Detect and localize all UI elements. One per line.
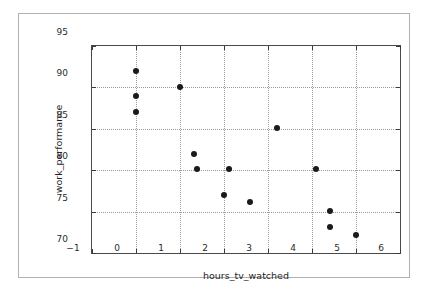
data-point [313,166,319,172]
x-axis-tick [356,46,357,50]
data-point [133,68,139,74]
x-axis-tick [356,249,357,253]
gridline-horizontal [92,129,400,130]
x-axis-tick [312,46,313,50]
x-tick-label: 3 [246,243,252,253]
y-axis-tick [396,253,400,254]
x-axis-tick [224,46,225,50]
x-tick-label: 4 [290,243,296,253]
data-point [221,192,227,198]
screenshot-root: work_performance hours_tv_watched −10123… [0,0,428,292]
data-point [191,151,197,157]
gridline-vertical [136,46,137,253]
gridline-vertical [312,46,313,253]
x-axis-tick [136,249,137,253]
gridline-vertical [180,46,181,253]
x-axis-tick [312,249,313,253]
x-axis-tick [400,249,401,253]
y-axis-tick [92,46,96,47]
x-axis-tick [268,249,269,253]
x-axis-tick [268,46,269,50]
y-axis-tick [396,170,400,171]
y-axis-tick [396,129,400,130]
gridline-vertical [268,46,269,253]
data-point [327,224,333,230]
x-tick-label: 0 [114,243,120,253]
gridline-vertical [356,46,357,253]
x-tick-label: 5 [334,243,340,253]
y-axis-tick [92,129,96,130]
y-tick-label: 90 [47,68,68,78]
y-axis-tick [396,87,400,88]
x-axis-tick [180,249,181,253]
x-tick-label: 6 [378,243,384,253]
x-axis-tick [180,46,181,50]
x-tick-label: 1 [158,243,164,253]
x-axis-label: hours_tv_watched [91,270,401,281]
y-axis-tick [396,212,400,213]
gridline-horizontal [92,170,400,171]
y-tick-label: 95 [47,27,68,37]
data-point [274,125,280,131]
x-axis-tick [400,46,401,50]
data-point [177,84,183,90]
y-axis-tick [396,46,400,47]
x-tick-label: 2 [202,243,208,253]
plot-area [91,45,401,254]
x-axis-tick [136,46,137,50]
data-point [247,199,253,205]
gridline-vertical [224,46,225,253]
data-point [353,232,359,238]
y-axis-tick [92,212,96,213]
y-axis-tick [92,87,96,88]
data-point [133,109,139,115]
figure-frame: work_performance hours_tv_watched −10123… [18,13,410,278]
data-point [226,166,232,172]
data-point [327,208,333,214]
gridline-horizontal [92,212,400,213]
gridline-horizontal [92,87,400,88]
y-tick-label: 85 [47,110,68,120]
y-axis-tick [92,170,96,171]
y-axis-tick [92,253,96,254]
x-axis-tick [224,249,225,253]
x-tick-label: −1 [66,243,79,253]
y-tick-label: 70 [47,234,68,244]
y-tick-label: 75 [47,193,68,203]
data-point [133,93,139,99]
data-point [194,166,200,172]
y-tick-label: 80 [47,151,68,161]
